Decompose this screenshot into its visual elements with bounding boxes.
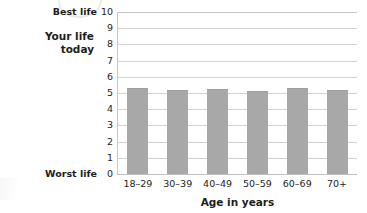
y-axis-tick-label: 10 — [101, 7, 113, 17]
bar-series — [118, 12, 357, 174]
y-axis-tick-label: 6 — [107, 72, 113, 82]
bar — [207, 89, 228, 174]
y-axis-title: Your life today — [8, 30, 94, 56]
y-axis-tick-label: 9 — [107, 23, 113, 33]
bar-slot — [317, 12, 357, 174]
bar-slot — [198, 12, 238, 174]
bar-slot — [158, 12, 198, 174]
bar — [287, 88, 308, 174]
y-axis-tick-label: 4 — [107, 104, 113, 114]
x-axis-tick-label: 40–49 — [198, 179, 238, 189]
x-axis-tick-labels: 18–2930–3940–4950–5960–6970+ — [118, 179, 357, 189]
y-axis-tick-label: 2 — [107, 137, 113, 147]
x-axis-title: Age in years — [118, 196, 357, 208]
x-axis-line — [117, 174, 357, 176]
y-axis-tick-label: 7 — [107, 56, 113, 66]
bar-slot — [237, 12, 277, 174]
y-axis-tick-label: 3 — [107, 121, 113, 131]
x-axis-tick-label: 60–69 — [277, 179, 317, 189]
x-axis-tick-label: 30–39 — [158, 179, 198, 189]
bar-slot — [277, 12, 317, 174]
plot-area: 109876543210 Best life Worst life — [118, 12, 357, 174]
best-life-annotation: Best life — [53, 7, 97, 17]
x-axis-tick-label: 50–59 — [237, 179, 277, 189]
y-axis-title-line-2: today — [8, 43, 94, 56]
x-axis-tick-label: 18–29 — [118, 179, 158, 189]
y-axis-title-line-1: Your life — [45, 30, 94, 42]
bar-slot — [118, 12, 158, 174]
scan-artifact-corner-icon — [0, 178, 26, 200]
x-axis-tick-label: 70+ — [317, 179, 357, 189]
y-axis-tick-label: 8 — [107, 40, 113, 50]
y-axis-tick-label: 1 — [107, 153, 113, 163]
y-axis-tick-label: 0 — [107, 169, 113, 179]
bar — [247, 91, 268, 174]
bar — [167, 90, 188, 174]
bar — [327, 90, 348, 174]
bar-chart: Your life today 109876543210 Best life W… — [0, 0, 367, 213]
y-axis-tick-label: 5 — [107, 88, 113, 98]
bar — [127, 88, 148, 174]
worst-life-annotation: Worst life — [45, 169, 97, 179]
